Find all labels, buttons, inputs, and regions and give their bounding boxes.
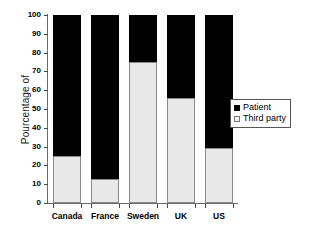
y-tick-mark — [44, 128, 48, 129]
bar-us — [205, 15, 233, 203]
x-category-label-uk: UK — [162, 211, 200, 221]
bar-segment-patient — [91, 15, 119, 179]
x-tick-mark — [195, 204, 196, 208]
bar-segment-third-party — [205, 148, 233, 203]
x-tick-mark — [157, 204, 158, 208]
x-category-label-france: France — [86, 211, 124, 221]
legend-swatch-patient-icon — [234, 105, 240, 111]
chart-legend: Patient Third party — [230, 99, 291, 128]
y-tick-mark — [44, 165, 48, 166]
bar-segment-patient — [53, 15, 81, 156]
bar-sweden — [129, 15, 157, 203]
x-axis-line — [47, 203, 238, 204]
y-tick-mark — [44, 184, 48, 185]
bar-segment-third-party — [53, 156, 81, 203]
bar-segment-third-party — [167, 98, 195, 203]
y-tick-mark — [44, 147, 48, 148]
y-tick-mark — [44, 34, 48, 35]
x-tick-mark — [129, 204, 130, 208]
bar-segment-third-party — [129, 62, 157, 203]
y-tick-label: 40 — [22, 124, 41, 132]
x-tick-mark — [119, 204, 120, 208]
legend-entry-patient: Patient — [234, 102, 286, 113]
y-tick-mark — [44, 15, 48, 16]
y-tick-label: 50 — [22, 105, 41, 113]
x-tick-mark — [205, 204, 206, 208]
x-tick-mark — [233, 204, 234, 208]
y-tick-label: 100 — [22, 11, 41, 19]
x-category-label-us: US — [200, 211, 238, 221]
y-axis-tick-labels: 1009080706050403020100 — [22, 15, 41, 203]
x-tick-mark — [167, 204, 168, 208]
y-tick-label: 70 — [22, 67, 41, 75]
legend-label-patient: Patient — [243, 102, 271, 113]
x-tick-mark — [53, 204, 54, 208]
x-tick-mark — [91, 204, 92, 208]
y-tick-mark — [44, 203, 48, 204]
y-tick-label: 90 — [22, 30, 41, 38]
y-tick-label: 0 — [22, 199, 41, 207]
x-category-label-sweden: Sweden — [124, 211, 162, 221]
x-tick-mark — [81, 204, 82, 208]
bar-chart: Pourcentage of 1009080706050403020100 Pa… — [0, 0, 313, 239]
y-tick-mark — [44, 109, 48, 110]
y-tick-label: 10 — [22, 180, 41, 188]
bar-france — [91, 15, 119, 203]
y-tick-label: 60 — [22, 86, 41, 94]
y-tick-label: 20 — [22, 161, 41, 169]
y-tick-mark — [44, 71, 48, 72]
y-tick-mark — [44, 90, 48, 91]
bar-segment-patient — [167, 15, 195, 98]
legend-label-third-party: Third party — [243, 113, 286, 124]
bar-segment-patient — [129, 15, 157, 62]
x-category-label-canada: Canada — [48, 211, 86, 221]
y-tick-mark — [44, 53, 48, 54]
bar-segment-patient — [205, 15, 233, 148]
bar-segment-third-party — [91, 179, 119, 203]
bar-uk — [167, 15, 195, 203]
y-tick-label: 30 — [22, 143, 41, 151]
bar-canada — [53, 15, 81, 203]
y-tick-label: 80 — [22, 49, 41, 57]
plot-area — [48, 15, 238, 203]
legend-swatch-third-party-icon — [234, 116, 240, 122]
legend-entry-third-party: Third party — [234, 113, 286, 124]
